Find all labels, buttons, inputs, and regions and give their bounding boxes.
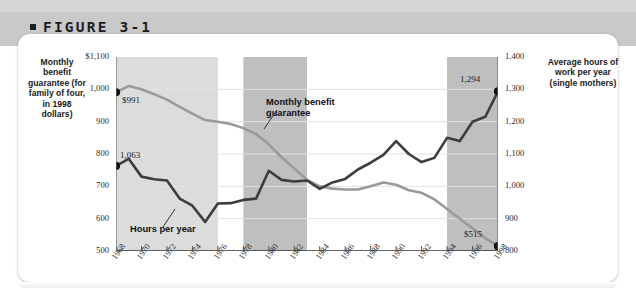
right-tick-label: 1,300 — [505, 83, 550, 93]
annotation-line: guarantee — [266, 108, 335, 119]
left-tick-label: 700 — [64, 180, 109, 190]
right-tick-label: 1,100 — [505, 148, 550, 158]
figure-bullet-icon — [30, 24, 36, 30]
right-tick-label: 800 — [505, 245, 550, 255]
label-hours-start: 1,063 — [120, 150, 140, 160]
figure-title-text: FIGURE 3-1 — [43, 19, 152, 35]
right-tick-label: 900 — [505, 213, 550, 223]
chart-svg — [116, 57, 498, 251]
left-tick-label: 1,000 — [64, 83, 109, 93]
annotation-line: Monthly benefit — [266, 97, 335, 108]
left-tick-label: 800 — [64, 148, 109, 158]
label-hours-end: 1,294 — [460, 74, 480, 84]
label-benefit-end: $515 — [464, 229, 482, 239]
annotation-monthly-benefit: Monthly benefitguarantee — [266, 97, 335, 119]
plot-area — [116, 57, 498, 251]
header-band-highlight — [0, 0, 636, 12]
figure-screenshot: FIGURE 3-1 Monthly benefit guarantee (fo… — [0, 0, 636, 301]
right-axis-caption: Average hours of work per year (single m… — [546, 57, 620, 88]
left-tick-label: 600 — [64, 213, 109, 223]
left-tick-label: $1,100 — [64, 51, 109, 61]
left-tick-label: 900 — [64, 116, 109, 126]
right-tick-label: 1,200 — [505, 116, 550, 126]
figure-title: FIGURE 3-1 — [30, 19, 152, 35]
left-tick-label: 500 — [64, 245, 109, 255]
label-benefit-start: $991 — [122, 95, 140, 105]
card-bottom-edge — [18, 282, 618, 288]
right-tick-label: 1,400 — [505, 51, 550, 61]
annotation-hours-per-year: Hours per year — [130, 224, 196, 235]
right-tick-label: 1,000 — [505, 180, 550, 190]
